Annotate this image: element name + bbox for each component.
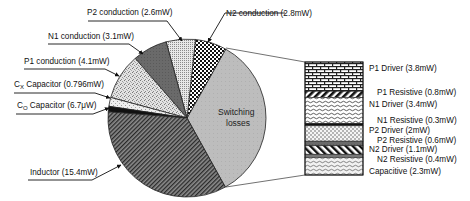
label-n1-resistive: N1 Resistive (0.3mW) [377,117,457,125]
label-capacitive: Capacitive (2.3mW) [369,168,441,176]
switching-line2: losses [218,118,254,129]
bar-segment-n2-resistive [305,154,363,157]
bar-segment-p1-resistive [305,91,363,97]
bar-segment-capacitive [305,157,363,175]
label-p2-conduction: P2 conduction (2.6mW) [87,9,173,17]
bar-segment-p1-driver [305,62,363,91]
label-n2-driver: N2 Driver (1.1mW) [369,146,437,154]
label-n2-resistive: N2 Resistive (0.4mW) [377,156,457,164]
bar-segment-n1-driver [305,97,363,123]
bar-segment-n1-resistive [305,124,363,126]
switching-line1: Switching [218,107,254,118]
label-p2-resistive: P2 Resistive (0.6mW) [377,137,456,145]
label-cx-capacitor: CX Capacitor (0.796mW) [14,81,104,90]
label-p2-driver: P2 Driver (2mW) [369,127,430,135]
switching-losses-bar [305,62,363,175]
co-rest: Capacitor (6.7μW) [28,101,97,110]
label-p1-driver: P1 Driver (3.8mW) [369,65,437,73]
label-p1-conduction: P1 conduction (4.1mW) [24,58,110,66]
cx-rest: Capacitor (0.796mW) [24,80,104,89]
label-switching-losses: Switching losses [218,107,254,128]
label-co-capacitor: CO Capacitor (6.7μW) [17,102,96,111]
label-p1-resistive: P1 Resistive (0.8mW) [377,89,456,97]
label-n1-conduction: N1 conduction (3.1mW) [48,33,134,41]
bar-segment-p2-resistive [305,141,363,146]
label-n1-driver: N1 Driver (3.4mW) [369,101,437,109]
bar-segment-n2-driver [305,146,363,154]
label-inductor: Inductor (15.4mW) [30,169,98,177]
label-n2-conduction: N2 conduction (2.8mW) [226,10,312,18]
bar-segment-p2-driver [305,126,363,141]
